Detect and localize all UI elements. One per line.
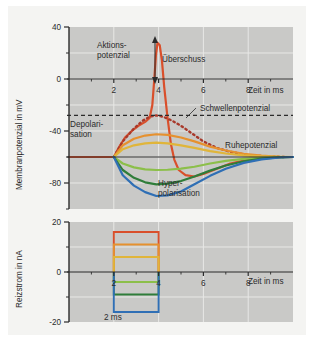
lower-xtick-6: 6 — [201, 279, 206, 288]
lower-x-axis-title: Zeit in ms — [248, 277, 284, 286]
lower-xtick-4: 4 — [156, 279, 161, 288]
lower-ytick-0: 0 — [56, 268, 61, 277]
upper-xtick-4: 4 — [156, 86, 161, 95]
upper-ytick-40: 40 — [52, 23, 62, 32]
figure-container: 400-40-802468 Membranpotenzial in mV Zei… — [0, 0, 314, 341]
pulse-duration-label: 2 ms — [104, 313, 122, 322]
annotation-schwellenpotenzial: Schwellenpotenzial — [200, 104, 270, 113]
action-potential-figure: 400-40-802468 Membranpotenzial in mV Zei… — [0, 0, 314, 341]
annotation-hyperpolarisation-line2: polarisation — [158, 189, 200, 198]
upper-xtick-6: 6 — [201, 86, 206, 95]
lower-ytick-20: 20 — [52, 218, 62, 227]
annotation-depolarisation-line2: sation — [70, 130, 92, 139]
annotation-ruhepotenzial: Ruhepotenzial — [225, 141, 278, 150]
upper-x-axis-title: Zeit in ms — [248, 86, 284, 95]
upper-ytick--40: -40 — [49, 127, 61, 136]
lower-ytick--20: -20 — [49, 318, 61, 327]
lower-xtick-2: 2 — [112, 279, 117, 288]
upper-ytick-0: 0 — [56, 75, 61, 84]
annotation-hyperpolarisation-line1: Hyper- — [158, 179, 183, 188]
upper-ytick--80: -80 — [49, 179, 61, 188]
lower-y-axis-title: Reizstrom in nA — [15, 250, 24, 308]
annotation-aktionspotenzial-line2: potenzial — [97, 51, 130, 60]
annotation-depolarisation-line1: Depolari- — [70, 120, 103, 129]
annotation-aktionspotenzial-line1: Aktions- — [97, 41, 127, 50]
annotation-ueberschuss: Überschuss — [162, 54, 205, 64]
upper-y-axis-title: Membranpotenzial in mV — [15, 99, 24, 190]
upper-xtick-2: 2 — [112, 86, 117, 95]
